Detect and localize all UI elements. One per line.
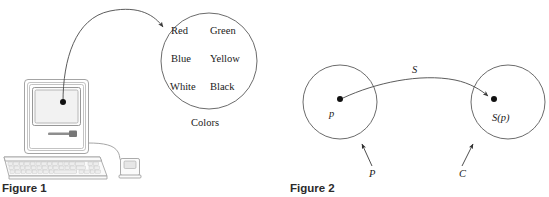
color-item-white: White — [170, 81, 196, 92]
figure1-caption: Figure 1 — [2, 182, 47, 194]
source-set-leader — [362, 144, 372, 166]
figure2-caption: Figure 2 — [290, 182, 335, 194]
figure2-target-set: S(p) C — [459, 65, 545, 179]
color-item-blue: Blue — [171, 53, 191, 64]
mapping-label-figure2: S — [412, 64, 418, 75]
computer-screen — [33, 88, 81, 126]
colors-set-label: Colors — [191, 117, 219, 128]
figure2-source-set: p P — [303, 65, 377, 179]
screen-point-dot — [60, 99, 66, 105]
target-point-dot — [491, 96, 497, 102]
color-item-yellow: Yellow — [210, 53, 240, 64]
source-element-label: p — [328, 108, 334, 119]
keyboard — [4, 157, 107, 179]
target-set-circle — [471, 65, 545, 139]
source-set-label: P — [368, 168, 376, 179]
target-element-label: S(p) — [492, 112, 510, 124]
source-point-dot — [337, 96, 343, 102]
color-item-red: Red — [171, 25, 189, 36]
target-set-leader — [462, 144, 473, 166]
target-set-label: C — [459, 168, 467, 179]
mouse — [119, 159, 141, 179]
color-item-green: Green — [210, 25, 236, 36]
computer-illustration — [4, 80, 141, 180]
figure-sheet: Red Green Blue Yellow White Black Colors… — [0, 0, 549, 197]
color-item-black: Black — [210, 81, 235, 92]
colors-set: Red Green Blue Yellow White Black Colors — [161, 13, 257, 128]
mapping-arrow-figure2 — [343, 78, 488, 98]
